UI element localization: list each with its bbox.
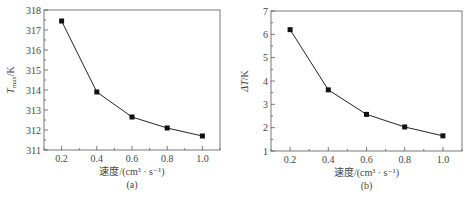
chart-panel-a: 3113123133143153163173180.20.40.60.81.0速… xyxy=(5,5,220,192)
data-point-marker xyxy=(402,124,407,129)
x-tick-label: 0.8 xyxy=(161,153,174,164)
data-point-marker xyxy=(440,133,445,138)
x-tick-label: 0.6 xyxy=(126,153,139,164)
data-point-marker xyxy=(94,90,99,95)
y-tick-label: 3 xyxy=(263,99,268,110)
x-tick-label: 0.6 xyxy=(360,154,373,165)
panel-label: (b) xyxy=(361,180,373,192)
y-tick-label: 2 xyxy=(263,122,268,133)
x-axis-title: 速度/(cm³ · s⁻¹) xyxy=(99,165,164,178)
data-point-marker xyxy=(59,19,64,24)
x-tick-label: 0.8 xyxy=(398,154,411,165)
y-tick-label: 1 xyxy=(263,146,268,157)
data-point-marker xyxy=(288,27,293,32)
y-axis-title: ΔT/K xyxy=(239,70,250,93)
y-axis-subscript: max xyxy=(10,76,18,89)
x-axis-title: 速度/(cm³ · s⁻¹) xyxy=(334,166,399,179)
y-axis-title: Tmax/K xyxy=(5,65,18,93)
x-tick-label: 1.0 xyxy=(437,154,450,165)
data-point-marker xyxy=(200,134,205,139)
x-tick-label: 1.0 xyxy=(196,153,209,164)
figure: 3113123133143153163173180.20.40.60.81.0速… xyxy=(0,0,468,202)
plot-frame xyxy=(271,11,462,151)
y-tick-label: 317 xyxy=(26,25,41,36)
x-tick-label: 0.4 xyxy=(91,153,104,164)
y-tick-label: 4 xyxy=(263,76,268,87)
data-point-marker xyxy=(326,87,331,92)
y-axis-unit: /K xyxy=(239,70,250,81)
y-tick-label: 315 xyxy=(26,65,41,76)
y-tick-label: 311 xyxy=(26,145,41,156)
y-tick-label: 316 xyxy=(26,45,41,56)
chart-panel-b: 12345670.20.40.60.81.0速度/(cm³ · s⁻¹)(b)Δ… xyxy=(239,6,462,193)
x-tick-label: 0.4 xyxy=(322,154,335,165)
series-line xyxy=(290,30,443,136)
y-axis-unit: /K xyxy=(5,65,16,76)
y-tick-label: 5 xyxy=(263,52,268,63)
y-tick-label: 6 xyxy=(263,29,268,40)
y-tick-label: 314 xyxy=(26,85,41,96)
y-tick-label: 312 xyxy=(26,125,41,136)
plot-frame xyxy=(44,10,220,150)
data-point-marker xyxy=(130,115,135,120)
x-tick-label: 0.2 xyxy=(55,153,68,164)
y-tick-label: 7 xyxy=(263,6,268,17)
x-tick-label: 0.2 xyxy=(284,154,297,165)
panel-label: (a) xyxy=(126,179,137,191)
data-point-marker xyxy=(165,126,170,131)
y-tick-label: 318 xyxy=(26,5,41,16)
y-tick-label: 313 xyxy=(26,105,41,116)
data-point-marker xyxy=(364,112,369,117)
